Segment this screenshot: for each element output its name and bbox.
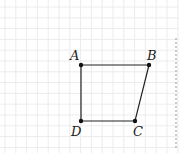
label-c: C [133,124,143,139]
point-d [79,119,83,123]
point-c [133,119,137,123]
label-b: B [146,48,157,63]
point-b [147,63,151,67]
grid [0,0,179,153]
label-d: D [70,124,82,139]
point-a [79,63,83,67]
grid-diagram: A B C D [0,0,179,153]
label-a: A [69,48,79,63]
